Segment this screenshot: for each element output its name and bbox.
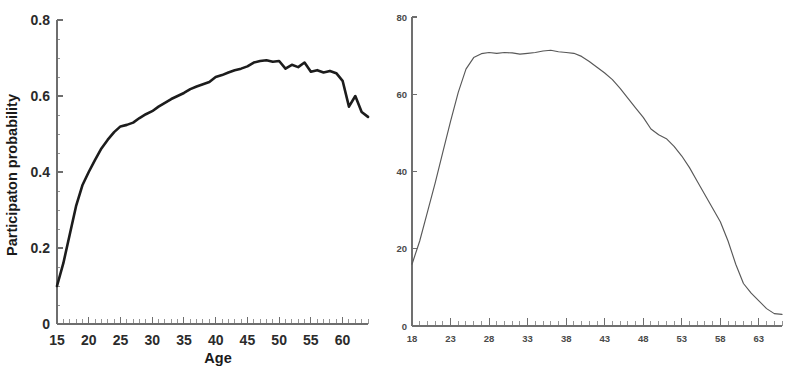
- x-tick-label: 35: [176, 332, 192, 348]
- left-series-line: [57, 60, 368, 286]
- x-tick-label: 55: [303, 332, 319, 348]
- y-tick-label: 0.6: [31, 88, 51, 104]
- x-tick-label: 33: [522, 333, 533, 344]
- y-tick-label: 20: [396, 243, 407, 254]
- right-y-tick-labels: 020406080: [396, 12, 407, 332]
- left-x-tick-labels: 15202530354045505560: [49, 332, 350, 348]
- x-tick-label: 60: [335, 332, 351, 348]
- x-tick-label: 30: [144, 332, 160, 348]
- right-minor-ticks: [412, 17, 782, 326]
- x-tick-label: 18: [407, 333, 418, 344]
- x-tick-label: 20: [81, 332, 97, 348]
- right-chart-svg: 020406080 18232833384348535863 Age: [393, 0, 786, 370]
- y-tick-label: 0.4: [31, 164, 51, 180]
- y-tick-label: 40: [396, 166, 407, 177]
- x-tick-label: 63: [754, 333, 765, 344]
- right-series-line: [412, 50, 782, 314]
- y-tick-label: 0: [42, 316, 50, 332]
- y-tick-label: 0.2: [31, 240, 51, 256]
- x-tick-label: 38: [561, 333, 572, 344]
- x-tick-label: 45: [240, 332, 256, 348]
- x-tick-label: 53: [677, 333, 688, 344]
- y-tick-label: 80: [396, 12, 407, 23]
- left-y-axis-title: Participaton probability: [4, 94, 20, 256]
- x-tick-label: 50: [271, 332, 287, 348]
- chart-panel-left: 00.20.40.60.8 15202530354045505560 Parti…: [0, 0, 393, 370]
- y-tick-label: 0.8: [31, 12, 51, 28]
- left-x-axis-title: Age: [204, 350, 231, 366]
- x-tick-label: 23: [445, 333, 456, 344]
- x-tick-label: 43: [599, 333, 610, 344]
- y-tick-label: 60: [396, 89, 407, 100]
- left-chart-svg: 00.20.40.60.8 15202530354045505560 Parti…: [0, 0, 393, 370]
- left-minor-ticks: [57, 20, 368, 324]
- left-y-tick-labels: 00.20.40.60.8: [31, 12, 51, 332]
- x-tick-label: 25: [113, 332, 129, 348]
- figure-container: 00.20.40.60.8 15202530354045505560 Parti…: [0, 0, 786, 370]
- right-major-ticks: [412, 17, 759, 326]
- chart-panel-right: 020406080 18232833384348535863 Age: [393, 0, 786, 370]
- y-tick-label: 0: [402, 321, 407, 332]
- x-tick-label: 40: [208, 332, 224, 348]
- x-tick-label: 48: [638, 333, 649, 344]
- right-x-tick-labels: 18232833384348535863: [407, 333, 764, 344]
- x-tick-label: 58: [715, 333, 726, 344]
- x-tick-label: 28: [484, 333, 495, 344]
- x-tick-label: 15: [49, 332, 65, 348]
